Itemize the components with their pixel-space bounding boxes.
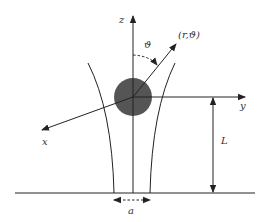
theta-label: ϑ <box>144 39 151 50</box>
r-vector <box>133 44 176 97</box>
z-axis-label: z <box>118 14 125 25</box>
left-flux-line <box>88 63 114 193</box>
y-axis-label: y <box>239 100 246 111</box>
polar-point-label: (r,ϑ) <box>178 29 200 40</box>
x-axis-label: x <box>42 136 48 147</box>
theta-angle-arc <box>133 55 157 65</box>
sphere-above-plane-diagram: z y x (r,ϑ) ϑ L a <box>0 0 264 222</box>
x-axis <box>42 97 133 130</box>
right-flux-line <box>150 63 175 193</box>
gap-width-label: a <box>128 205 134 216</box>
height-label: L <box>220 135 228 146</box>
